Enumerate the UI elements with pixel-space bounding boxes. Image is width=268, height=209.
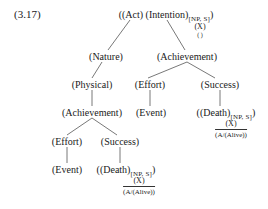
node-physical: (Physical)	[72, 79, 113, 90]
root-open: ((	[119, 9, 126, 20]
root-act: Act	[125, 9, 139, 20]
death-right-label: ((Death)	[197, 107, 231, 118]
death-left-close: )	[152, 164, 155, 175]
node-success-left: (Success)	[101, 136, 139, 147]
death-left-overline: (A/(Alive))	[123, 186, 155, 196]
node-death-left: ((Death)[NP, S])	[97, 164, 156, 180]
root-close: )	[210, 9, 213, 20]
death-right-overline: (A/(Alive))	[215, 129, 247, 139]
root-empty: ( )	[197, 31, 203, 40]
root-intention: (Intention)	[146, 9, 189, 20]
node-event-right: (Event)	[136, 107, 166, 118]
root-x: (X)	[194, 22, 205, 31]
death-right-x: (X)	[225, 119, 236, 128]
example-number: (3.17)	[14, 8, 41, 20]
death-right-close: )	[252, 107, 255, 118]
node-success-right: (Success)	[201, 79, 239, 90]
death-left-x: (X)	[133, 176, 144, 185]
node-achievement-top: (Achievement)	[157, 51, 217, 62]
death-left-label: ((Death)	[97, 164, 131, 175]
node-achievement-left: (Achievement)	[62, 107, 122, 118]
node-event-left: (Event)	[52, 164, 82, 175]
node-nature: (Nature)	[89, 51, 123, 62]
node-effort-right: (Effort)	[135, 79, 165, 90]
node-effort-left: (Effort)	[52, 136, 82, 147]
